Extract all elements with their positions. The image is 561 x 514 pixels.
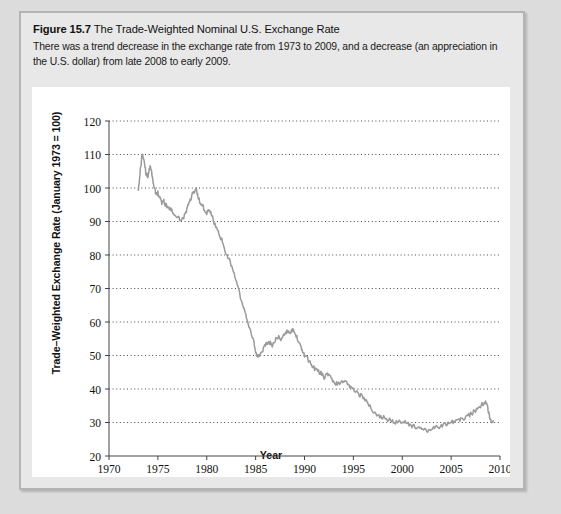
y-tick-label: 30 bbox=[89, 417, 101, 430]
y-tick-label: 40 bbox=[89, 384, 101, 397]
x-tick-label: 1985 bbox=[244, 463, 267, 476]
x-tick-label: 2005 bbox=[440, 463, 463, 476]
chart-card: Trade–Weighted Exchange Rate (January 19… bbox=[32, 87, 510, 477]
y-tick-label: 20 bbox=[89, 451, 101, 464]
figure-number: Figure 15.7 bbox=[33, 23, 91, 35]
y-tick-label: 90 bbox=[89, 216, 101, 229]
figure-title-line: Figure 15.7 The Trade-Weighted Nominal U… bbox=[33, 22, 513, 37]
page-background: Figure 15.7 The Trade-Weighted Nominal U… bbox=[0, 0, 561, 514]
y-tick-label: 110 bbox=[84, 149, 101, 162]
y-tick-label: 120 bbox=[84, 116, 102, 129]
y-tick-label: 80 bbox=[89, 250, 101, 263]
exchange-rate-series-line bbox=[138, 154, 493, 432]
x-tick-label: 1975 bbox=[146, 463, 169, 476]
x-tick-label: 2010 bbox=[488, 463, 510, 476]
x-tick-label: 1995 bbox=[342, 463, 365, 476]
x-tick-label: 1970 bbox=[97, 463, 120, 476]
y-tick-label: 50 bbox=[89, 350, 101, 363]
x-tick-label: 1980 bbox=[195, 463, 218, 476]
y-tick-label: 70 bbox=[89, 283, 101, 296]
figure-container: Figure 15.7 The Trade-Weighted Nominal U… bbox=[19, 11, 525, 490]
figure-description: There was a trend decrease in the exchan… bbox=[33, 40, 513, 69]
figure-title-text: The Trade-Weighted Nominal U.S. Exchange… bbox=[94, 23, 340, 35]
y-tick-label: 100 bbox=[84, 183, 102, 196]
x-tick-label: 1990 bbox=[293, 463, 316, 476]
x-tick-label: 2000 bbox=[391, 463, 414, 476]
y-tick-label: 60 bbox=[89, 317, 101, 330]
figure-caption: Figure 15.7 The Trade-Weighted Nominal U… bbox=[33, 22, 513, 69]
exchange-rate-line-chart: 2030405060708090100110120197019751980198… bbox=[32, 87, 510, 477]
